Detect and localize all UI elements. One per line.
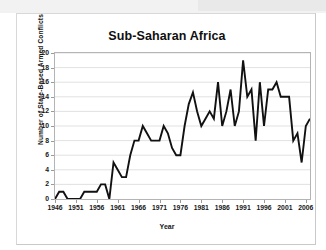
y-axis-tick-mark bbox=[51, 97, 54, 98]
y-axis-tick-label: 10 bbox=[23, 122, 49, 129]
x-axis-tick-mark bbox=[139, 200, 140, 203]
x-axis-tick-mark bbox=[243, 200, 244, 203]
x-axis-tick-mark bbox=[118, 200, 119, 203]
x-axis-tick-mark bbox=[306, 200, 307, 203]
chart-canvas bbox=[55, 53, 310, 199]
x-axis-tick-mark bbox=[264, 200, 265, 203]
y-axis-tick-mark bbox=[51, 184, 54, 185]
y-axis-tick-label: 8 bbox=[23, 137, 49, 144]
y-axis-tick-mark bbox=[51, 82, 54, 83]
x-axis-tick-mark bbox=[285, 200, 286, 203]
y-axis-tick-mark bbox=[51, 199, 54, 200]
plot-area bbox=[54, 52, 311, 200]
y-axis-tick-mark bbox=[51, 53, 54, 54]
y-axis-tick-mark bbox=[51, 170, 54, 171]
y-axis-tick-mark bbox=[51, 68, 54, 69]
y-axis-tick-label: 0 bbox=[23, 195, 49, 202]
y-axis-tick-label: 12 bbox=[23, 107, 49, 114]
x-axis-tick-mark bbox=[76, 200, 77, 203]
y-axis-tick-label: 20 bbox=[23, 49, 49, 56]
y-axis-tick-mark bbox=[51, 141, 54, 142]
y-axis-tick-mark bbox=[51, 111, 54, 112]
gridlines bbox=[55, 53, 310, 184]
chart-card: Sub-Saharan Africa Number of State-Based… bbox=[16, 13, 316, 245]
y-axis-tick-mark bbox=[51, 126, 54, 127]
y-axis-tick-label: 16 bbox=[23, 78, 49, 85]
x-axis-tick-mark bbox=[55, 200, 56, 203]
screenshot-root: Sub-Saharan Africa Number of State-Based… bbox=[0, 0, 326, 250]
x-axis-tick-label: 2006 bbox=[291, 204, 321, 211]
y-axis-tick-label: 2 bbox=[23, 180, 49, 187]
x-axis-tick-mark bbox=[160, 200, 161, 203]
x-axis-tick-mark bbox=[222, 200, 223, 203]
chart-title: Sub-Saharan Africa bbox=[17, 29, 317, 43]
x-axis-title: Year bbox=[17, 223, 317, 230]
y-axis-tick-label: 6 bbox=[23, 151, 49, 158]
top-background-band-right bbox=[198, 0, 326, 11]
data-series-line bbox=[55, 60, 310, 199]
x-axis-tick-mark bbox=[180, 200, 181, 203]
y-axis-tick-label: 18 bbox=[23, 64, 49, 71]
y-axis-tick-label: 14 bbox=[23, 93, 49, 100]
x-axis-tick-mark bbox=[97, 200, 98, 203]
y-axis-tick-label: 4 bbox=[23, 166, 49, 173]
x-axis-tick-mark bbox=[201, 200, 202, 203]
y-axis-tick-mark bbox=[51, 155, 54, 156]
